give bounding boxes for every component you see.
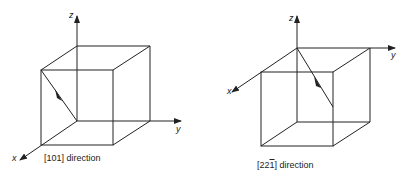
caption-right: [221] direction (257, 160, 314, 170)
left-cube (20, 16, 181, 160)
direction-vector-22-1 (297, 48, 333, 107)
direction-vector-101 (41, 70, 77, 121)
y-axis-label-right: y (391, 50, 396, 60)
x-axis-label-right: x (227, 86, 232, 96)
right-cube (232, 16, 395, 146)
caption-left: [101] direction (44, 153, 101, 163)
z-axis-label-right: z (289, 13, 294, 23)
direction-arrowhead-left (55, 89, 62, 101)
y-axis-label-left: y (176, 124, 181, 134)
x-axis-label-left: x (12, 153, 17, 163)
z-axis-label-left: z (69, 10, 74, 20)
x-axis-right (232, 48, 297, 92)
